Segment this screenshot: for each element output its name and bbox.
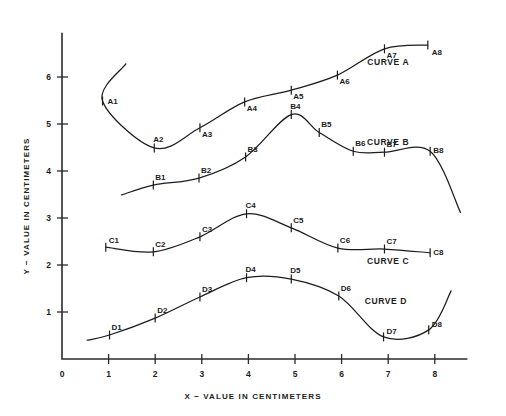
data-point-label: C6 [340,236,351,245]
data-point-label: B8 [433,146,444,155]
data-point-label: A5 [293,92,304,101]
series-label-curve-c: CURVE C [367,256,409,266]
data-point-label: D7 [387,327,398,336]
data-point-label: A8 [432,48,443,57]
data-point-label: B2 [201,166,212,175]
y-axis-title: Y − VALUE IN CENTIMETERS [22,137,31,274]
x-axis-tick-label: 6 [339,369,344,379]
data-point-label: D1 [112,323,123,332]
series-label-curve-d: CURVE D [365,296,407,306]
x-axis-tick-label: 5 [293,369,298,379]
x-axis-tick-label: 1 [106,369,111,379]
data-point-label: A3 [202,130,213,139]
x-axis-tick-label: 4 [246,369,251,379]
chart-figure: 012345678123456 A1A2A3A4A5A6A7A8B1B2B3B4… [0,0,506,416]
axes-group: 012345678123456 [46,33,467,379]
data-point-label: B6 [355,139,366,148]
data-point-label: C1 [109,236,120,245]
x-axis-tick-label: 7 [386,369,391,379]
data-point-label: D4 [246,265,257,274]
data-point-label: C5 [293,216,304,225]
series-label-curve-a: CURVE A [367,57,409,67]
data-point-label: B1 [155,173,166,182]
y-axis-tick-label: 2 [46,260,51,270]
data-point-label: D8 [432,320,443,329]
x-axis-tick-label: 2 [153,369,158,379]
y-axis-tick-label: 3 [46,213,51,223]
data-point-label: C3 [202,225,213,234]
data-point-label: C2 [155,240,166,249]
y-axis-tick-label: 6 [46,72,51,82]
y-axis-tick-label: 1 [46,307,51,317]
y-axis-tick-label: 5 [46,119,51,129]
data-point-label: D3 [202,285,213,294]
data-point-label: A2 [153,135,164,144]
data-point-label: C4 [246,201,257,210]
data-point-label: B3 [248,145,259,154]
y-axis-tick-label: 4 [46,166,51,176]
axis-lines [62,33,467,359]
series-labels-group: CURVE ACURVE BCURVE CCURVE D [365,57,410,306]
curve-line [122,114,461,212]
data-point-label: A6 [339,77,350,86]
x-axis-tick-label: 3 [199,369,204,379]
series-label-curve-b: CURVE B [367,137,409,147]
data-point-label: C8 [433,248,444,257]
x-axis-tick-label: 8 [432,369,437,379]
data-point-label: D5 [290,266,301,275]
data-point-label: C7 [386,237,397,246]
axis-titles-group: X − VALUE IN CENTIMETERSY − VALUE IN CEN… [22,137,322,401]
x-axis-tick-label: 0 [60,369,65,379]
data-point-label: A1 [108,97,119,106]
data-point-label: A4 [247,104,258,113]
data-point-label: B4 [290,102,301,111]
data-point-label: D2 [157,306,168,315]
point-labels-group: A1A2A3A4A5A6A7A8B1B2B3B4B5B6B7B8C1C2C3C4… [108,48,444,336]
data-point-label: D6 [341,284,352,293]
x-axis-title: X − VALUE IN CENTIMETERS [184,392,321,401]
chart-svg: 012345678123456 A1A2A3A4A5A6A7A8B1B2B3B4… [0,0,506,416]
data-point-label: B5 [321,120,332,129]
